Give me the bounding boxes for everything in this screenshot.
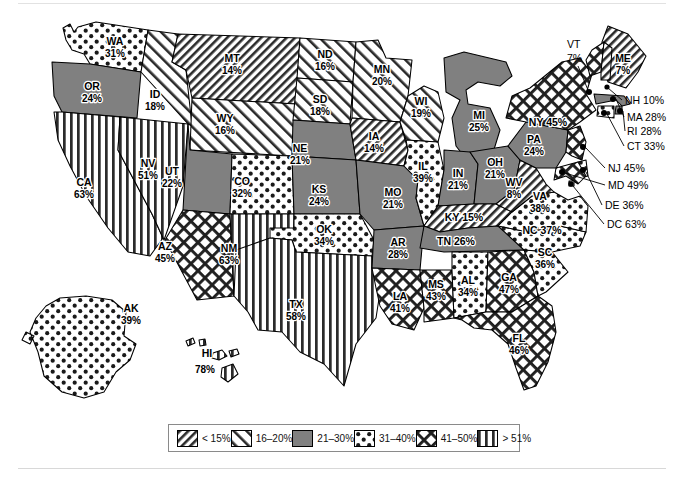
callout-dot-DE [580, 167, 586, 173]
callout-dot-NJ [580, 144, 586, 150]
label-AK: AK [123, 302, 139, 314]
value-WY: 16% [215, 125, 235, 136]
callout-dot-MA [610, 96, 616, 102]
value-LA: 41% [390, 303, 410, 314]
label-TN: TN 26% [437, 235, 476, 247]
label-GA: GA [501, 271, 517, 283]
callout-MA: MA 28% [627, 111, 666, 123]
value-AK: 39% [121, 315, 141, 326]
callout-CT: CT 33% [627, 140, 665, 152]
label-NM: NM [221, 242, 238, 254]
legend-swatch-16-20 [231, 430, 252, 447]
map-legend: < 15% 16–20% 21–30% 31–40% 41–50% > 51% [168, 424, 520, 452]
label-WV: WV [506, 176, 523, 188]
legend-label-1: 16–20% [256, 433, 293, 444]
label-KS: KS [312, 183, 327, 195]
label-VA: VA [533, 190, 547, 202]
label-ND: ND [317, 48, 333, 60]
value-VA: 38% [530, 203, 550, 214]
state-WY[interactable] [190, 98, 296, 156]
value-CA: 63% [74, 189, 94, 200]
label-FL: FL [513, 332, 526, 344]
value-AL: 34% [458, 287, 478, 298]
callout-NH: NH 10% [625, 94, 664, 106]
value-UT: 22% [162, 178, 182, 189]
state-HI[interactable] [186, 338, 239, 382]
value-IN: 21% [448, 180, 468, 191]
callout-dot-DC [568, 181, 574, 187]
value-KS: 24% [309, 196, 329, 207]
callout-line-RI [623, 111, 625, 131]
value-NM: 63% [219, 255, 239, 266]
label-CO: CO [234, 175, 250, 187]
value-OK: 34% [314, 236, 334, 247]
label-MO: MO [385, 186, 402, 198]
state-TX[interactable] [234, 238, 380, 386]
callout-line-DE [586, 172, 602, 205]
label-WI: WI [415, 95, 428, 107]
state-ND[interactable] [297, 38, 356, 82]
value-NE: 21% [290, 155, 310, 166]
legend-item-3[interactable]: 31–40% [354, 430, 416, 447]
label-MS: MS [428, 278, 444, 290]
legend-item-4[interactable]: 41–50% [416, 430, 478, 447]
callout-MD: MD 49% [608, 179, 648, 191]
label-NV: NV [141, 157, 156, 169]
legend-swatch-31-40 [354, 430, 375, 447]
label-ID: ID [150, 88, 161, 100]
legend-item-2[interactable]: 21–30% [292, 430, 354, 447]
label-OH: OH [487, 156, 503, 168]
callout-DE: DE 36% [605, 199, 644, 211]
label-HI: HI [202, 347, 213, 359]
callout-line-CT [607, 114, 624, 146]
label-OK: OK [316, 223, 332, 235]
callout-VT-value: 7% [567, 52, 582, 64]
label-NE: NE [293, 142, 308, 154]
legend-item-0[interactable]: < 15% [177, 430, 231, 447]
value-SD: 18% [310, 106, 330, 117]
label-MT: MT [224, 52, 240, 64]
legend-item-5[interactable]: > 51% [477, 430, 531, 447]
legend-label-3: 31–40% [379, 433, 416, 444]
state-IA[interactable] [350, 118, 408, 166]
value-ID: 18% [145, 101, 165, 112]
value-IL: 39% [413, 173, 433, 184]
label-NC: NC 37% [522, 224, 562, 236]
label-WA: WA [107, 35, 124, 47]
value-MI: 25% [469, 122, 489, 133]
label-OR: OR [84, 80, 100, 92]
legend-item-1[interactable]: 16–20% [231, 430, 293, 447]
value-MS: 43% [426, 291, 446, 302]
label-MN: MN [374, 63, 390, 75]
state-AK[interactable] [22, 296, 136, 398]
value-AZ: 45% [155, 253, 175, 264]
state-AR[interactable] [372, 226, 424, 270]
value-CO: 32% [232, 188, 252, 199]
label-IN: IN [453, 167, 464, 179]
label-SC: SC [538, 246, 553, 258]
value-WV: 8% [507, 189, 522, 200]
state-NE[interactable] [292, 120, 356, 160]
value-AR: 28% [388, 249, 408, 260]
label-AL: AL [461, 274, 476, 286]
legend-label-2: 21–30% [317, 433, 354, 444]
value-IA: 14% [364, 143, 384, 154]
label-IL: IL [418, 160, 428, 172]
label-ME: ME [615, 52, 631, 64]
value-HI: 78% [195, 364, 215, 375]
callout-DC: DC 63% [607, 218, 646, 230]
value-OR: 24% [82, 93, 102, 104]
callout-line-NJ [586, 148, 605, 168]
label-SD: SD [313, 93, 328, 105]
us-choropleth-map: WA 31% OR 24% CA 63% NV 51% ID 18% MT 14… [0, 0, 684, 415]
label-CA: CA [76, 176, 92, 188]
legend-swatch-gt51 [477, 430, 498, 447]
value-PA: 24% [524, 146, 544, 157]
legend-label-4: 41–50% [441, 433, 478, 444]
callout-dot-VT [586, 89, 592, 95]
legend-swatch-41-50 [416, 430, 437, 447]
callout-dot-RI [617, 108, 623, 114]
value-WA: 31% [105, 48, 125, 59]
state-NJ[interactable] [566, 126, 586, 160]
value-FL: 46% [509, 345, 529, 356]
